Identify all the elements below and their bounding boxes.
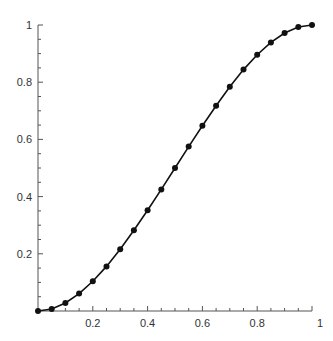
data-point-marker [295, 24, 301, 30]
tick-labels: 0.20.40.60.810.20.40.60.81 [17, 19, 323, 329]
data-point-marker [199, 123, 205, 129]
data-point-marker [76, 291, 82, 297]
x-tick-label: 1 [317, 317, 323, 329]
x-tick-label: 0.6 [195, 317, 210, 329]
x-tick-label: 0.4 [140, 317, 155, 329]
data-point-marker [282, 30, 288, 36]
data-point-marker [35, 308, 41, 314]
data-point-marker [131, 227, 137, 233]
data-point-marker [268, 39, 274, 45]
data-point-marker [145, 207, 151, 213]
data-point-marker [49, 306, 55, 312]
data-point-marker [172, 165, 178, 171]
data-point-marker [90, 278, 96, 284]
y-tick-label: 0.6 [17, 133, 32, 145]
plot-area [35, 22, 315, 314]
x-tick-label: 0.2 [85, 317, 100, 329]
data-point-marker [62, 300, 68, 306]
y-tick-label: 0.2 [17, 248, 32, 260]
data-point-marker [241, 67, 247, 73]
data-point-marker [254, 52, 260, 58]
data-point-marker [309, 22, 315, 28]
data-point-marker [117, 246, 123, 252]
data-point-marker [227, 84, 233, 90]
data-point-marker [104, 263, 110, 269]
line-chart: 0.20.40.60.810.20.40.60.81 [0, 0, 333, 341]
y-tick-label: 0.8 [17, 76, 32, 88]
y-tick-label: 1 [26, 19, 32, 31]
data-point-marker [186, 144, 192, 150]
x-tick-label: 0.8 [250, 317, 265, 329]
data-point-marker [158, 186, 164, 192]
y-tick-label: 0.4 [17, 191, 32, 203]
data-point-marker [213, 103, 219, 109]
